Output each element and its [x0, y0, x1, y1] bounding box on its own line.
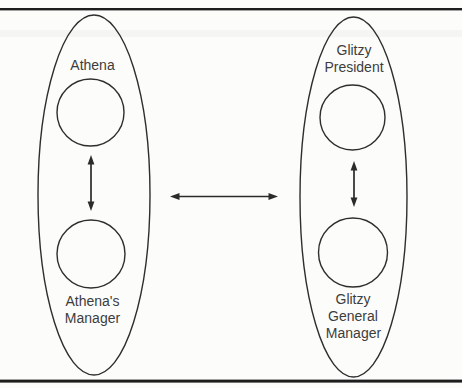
left-vertical-double-arrow	[88, 155, 95, 211]
top-rule	[0, 8, 462, 10]
center-horizontal-double-arrow	[170, 193, 278, 200]
arrowhead-left-icon	[170, 193, 180, 200]
arrowhead-up-icon	[351, 161, 358, 171]
left-oval-top-label: Athena	[70, 57, 115, 73]
arrowhead-up-icon	[88, 155, 95, 165]
arrowhead-down-icon	[351, 198, 358, 208]
right-oval-bottom-label-line2: General	[328, 308, 378, 324]
arrowhead-right-icon	[269, 193, 279, 200]
left-bottom-circle	[57, 220, 125, 288]
left-top-circle	[57, 79, 124, 146]
right-oval-bottom-label-line1: Glitzy	[336, 291, 371, 307]
right-oval-top-label-line2: President	[324, 59, 383, 75]
dyad-negotiation-diagram: Athena Athena's Manager Glitzy President…	[0, 0, 462, 388]
arrowhead-down-icon	[88, 202, 95, 212]
right-oval-top-label-line1: Glitzy	[337, 42, 372, 58]
right-vertical-double-arrow	[351, 161, 358, 207]
right-top-circle	[320, 85, 385, 150]
left-oval-bottom-label-line1: Athena's	[65, 293, 119, 309]
figure-page: Athena Athena's Manager Glitzy President…	[0, 0, 462, 388]
right-oval-bottom-label-line3: Manager	[326, 325, 382, 341]
right-bottom-circle	[319, 218, 388, 287]
left-oval-bottom-label-line2: Manager	[65, 310, 121, 326]
bottom-rule	[0, 380, 462, 383]
